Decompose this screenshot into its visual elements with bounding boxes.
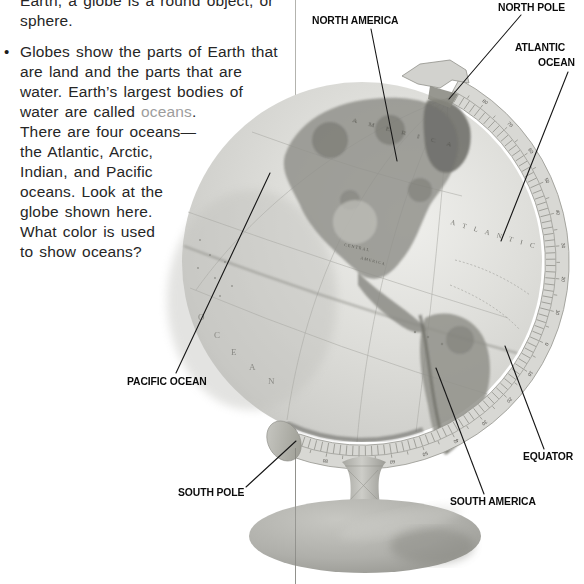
leader-north-pole <box>449 15 521 99</box>
label-pacific-ocean: PACIFIC OCEAN <box>127 375 207 387</box>
stand-neck <box>342 457 386 505</box>
column-divider-rule-overlay <box>295 448 296 584</box>
label-atlantic-ocean-line2: OCEAN <box>538 56 575 68</box>
map-letter: C <box>214 330 220 340</box>
label-south-pole: SOUTH POLE <box>178 486 244 498</box>
svg-text:60: 60 <box>389 459 395 465</box>
label-south-america: SOUTH AMERICA <box>450 495 536 507</box>
book-page: { "article": { "paragraph1": { "lines": … <box>0 0 584 584</box>
map-letter: E <box>231 347 237 357</box>
label-equator: EQUATOR <box>523 450 573 462</box>
map-letter: N <box>268 376 275 386</box>
svg-text:30: 30 <box>561 243 566 249</box>
label-north-pole: NORTH POLE <box>498 1 565 13</box>
label-atlantic-ocean-line1: ATLANTIC <box>515 41 565 53</box>
base-shadow <box>390 528 474 564</box>
map-letter: A <box>249 362 256 372</box>
svg-text:20: 20 <box>561 276 566 282</box>
label-north-america: NORTH AMERICA <box>312 14 398 26</box>
